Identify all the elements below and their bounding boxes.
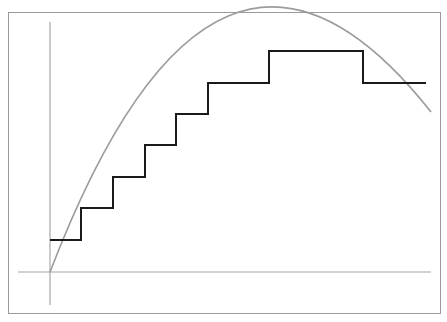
frame-border [9, 13, 441, 314]
step-function-diagram [0, 0, 447, 322]
step-function [50, 51, 426, 240]
smooth-curve [50, 7, 431, 272]
